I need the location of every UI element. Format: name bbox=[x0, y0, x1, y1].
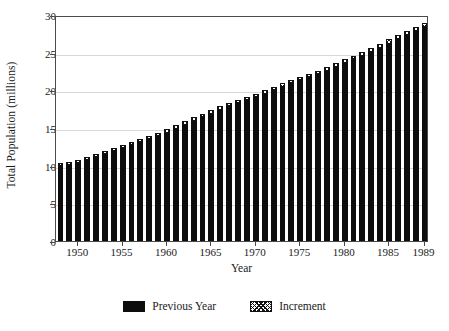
x-tick-label: 1970 bbox=[232, 246, 278, 258]
bar-segment-increment bbox=[404, 31, 410, 36]
bar-segment-increment bbox=[324, 67, 330, 71]
bar-segment-increment bbox=[333, 63, 339, 67]
bar-segment-increment bbox=[288, 80, 294, 83]
bar-segment-increment bbox=[413, 27, 419, 31]
x-tick-label: 1950 bbox=[54, 246, 100, 258]
y-tick-mark bbox=[50, 242, 55, 243]
bar-segment-increment bbox=[262, 90, 268, 94]
bar-segment-previous-year bbox=[395, 39, 401, 241]
bar-segment-increment bbox=[315, 71, 321, 74]
bar-segment-increment bbox=[306, 74, 312, 77]
bar-segment-previous-year bbox=[173, 129, 179, 241]
bar-segment-increment bbox=[111, 148, 117, 151]
bar-segment-previous-year bbox=[120, 148, 126, 241]
bar-segment-previous-year bbox=[297, 80, 303, 241]
bar-segment-previous-year bbox=[102, 154, 108, 241]
x-tick-label: 1980 bbox=[321, 246, 367, 258]
bar-segment-previous-year bbox=[368, 52, 374, 241]
bar-segment-previous-year bbox=[75, 163, 81, 241]
bar-segment-previous-year bbox=[84, 160, 90, 241]
y-axis-title-text: Total Population (millions) bbox=[5, 61, 17, 188]
bar-segment-previous-year bbox=[137, 142, 143, 241]
bar-segment-increment bbox=[120, 145, 126, 148]
bar-segment-previous-year bbox=[217, 110, 223, 241]
bar-segment-previous-year bbox=[413, 31, 419, 241]
bar-segment-increment bbox=[200, 114, 206, 118]
bar-segment-previous-year bbox=[200, 117, 206, 241]
bar-segment-previous-year bbox=[93, 157, 99, 241]
bar-segment-previous-year bbox=[333, 67, 339, 241]
bar-segment-increment bbox=[244, 97, 250, 100]
x-tick-mark bbox=[255, 242, 256, 246]
bar-segment-increment bbox=[359, 52, 365, 56]
bar-segment-increment bbox=[191, 117, 197, 121]
bar-segment-previous-year bbox=[146, 139, 152, 241]
bar-segment-previous-year bbox=[66, 165, 72, 241]
bar-segment-increment bbox=[271, 87, 277, 91]
crosshatch-swatch bbox=[250, 301, 272, 312]
bar-segment-increment bbox=[137, 139, 143, 142]
plot-area bbox=[55, 16, 428, 242]
bar-segment-increment bbox=[129, 142, 135, 145]
bar-segment-previous-year bbox=[271, 90, 277, 241]
bar-segment-previous-year bbox=[253, 97, 259, 241]
bar-segment-previous-year bbox=[164, 133, 170, 241]
bar-segment-previous-year bbox=[359, 56, 365, 241]
bar-segment-increment bbox=[93, 154, 99, 157]
bar-segment-increment bbox=[182, 121, 188, 125]
bar-segment-increment bbox=[217, 106, 223, 110]
bar-segment-previous-year bbox=[324, 71, 330, 241]
bar-segment-previous-year bbox=[422, 27, 428, 241]
bar-segment-increment bbox=[235, 100, 241, 103]
x-tick-label: 1955 bbox=[99, 246, 145, 258]
bar-segment-previous-year bbox=[226, 106, 232, 241]
bar-segment-increment bbox=[226, 103, 232, 106]
bar-segment-previous-year bbox=[191, 121, 197, 241]
bar-segment-increment bbox=[377, 44, 383, 49]
bar-segment-previous-year bbox=[111, 151, 117, 241]
bar-segment-previous-year bbox=[262, 94, 268, 241]
bar-segment-previous-year bbox=[280, 87, 286, 241]
bar-segment-increment bbox=[342, 59, 348, 63]
bar-segment-increment bbox=[253, 94, 259, 97]
bar-segment-increment bbox=[164, 129, 170, 133]
bar-segment-increment bbox=[75, 160, 81, 163]
bar-segment-increment bbox=[280, 83, 286, 87]
bar-segment-increment bbox=[351, 56, 357, 60]
bar-segment-previous-year bbox=[208, 114, 214, 241]
x-tick-mark bbox=[77, 242, 78, 246]
legend-item-previous-year: Previous Year bbox=[123, 300, 216, 312]
bar-segment-previous-year bbox=[315, 74, 321, 241]
bar-segment-previous-year bbox=[386, 44, 392, 241]
bar-segment-increment bbox=[66, 162, 72, 165]
x-tick-label: 1965 bbox=[187, 246, 233, 258]
chart-legend: Previous Year Increment bbox=[0, 300, 449, 312]
bar-segment-increment bbox=[422, 23, 428, 28]
bar-segment-increment bbox=[58, 163, 64, 166]
population-bar-chart: Total Population (millions) 051015202530… bbox=[0, 0, 449, 331]
bar-segment-previous-year bbox=[404, 35, 410, 241]
x-tick-label: 1960 bbox=[143, 246, 189, 258]
bar-segment-increment bbox=[395, 35, 401, 39]
bar-segment-previous-year bbox=[244, 100, 250, 241]
bar-segment-previous-year bbox=[235, 103, 241, 241]
bar-segment-increment bbox=[386, 39, 392, 44]
bar-segment-previous-year bbox=[351, 59, 357, 241]
bar-segment-increment bbox=[84, 157, 90, 160]
legend-item-increment: Increment bbox=[250, 300, 326, 312]
bar-segment-increment bbox=[155, 133, 161, 137]
bar-segment-increment bbox=[368, 48, 374, 52]
bar-segment-previous-year bbox=[58, 166, 64, 241]
bar-segment-previous-year bbox=[155, 136, 161, 241]
bar-segment-previous-year bbox=[182, 125, 188, 241]
x-tick-label: 1975 bbox=[276, 246, 322, 258]
x-tick-mark bbox=[122, 242, 123, 246]
bar-segment-previous-year bbox=[129, 145, 135, 241]
bar-segment-increment bbox=[102, 151, 108, 154]
bar-segment-previous-year bbox=[306, 77, 312, 241]
bar-series bbox=[56, 17, 427, 241]
x-axis-title: Year bbox=[55, 262, 428, 274]
x-tick-mark bbox=[344, 242, 345, 246]
solid-black-swatch bbox=[123, 301, 145, 312]
x-tick-label: 1989 bbox=[401, 246, 447, 258]
